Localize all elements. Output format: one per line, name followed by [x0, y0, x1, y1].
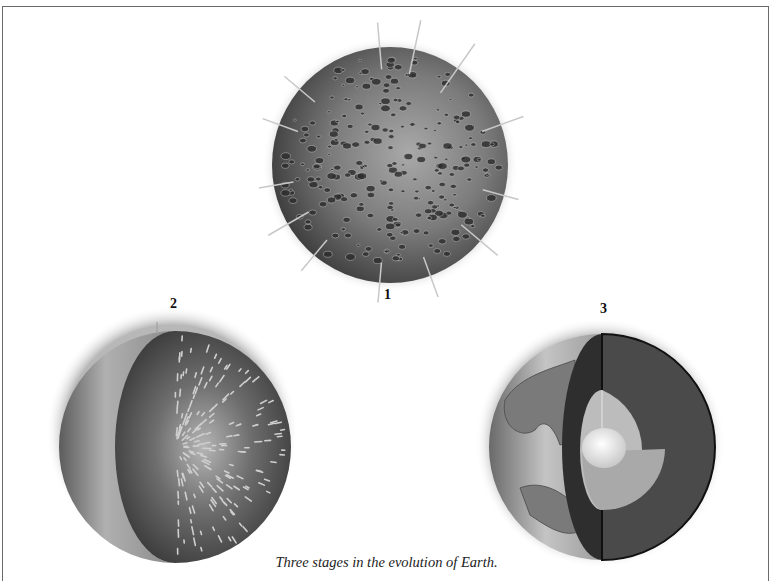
- crater: [389, 129, 394, 133]
- crater: [301, 126, 309, 131]
- crater: [334, 138, 338, 141]
- crater: [394, 171, 402, 177]
- crater: [330, 168, 333, 170]
- crater: [427, 200, 433, 204]
- crater: [319, 201, 327, 207]
- radial-dash: [201, 531, 202, 534]
- radial-dash: [206, 442, 210, 443]
- crater: [444, 113, 449, 116]
- crater: [390, 78, 398, 84]
- crater: [383, 88, 390, 93]
- crater: [455, 120, 460, 123]
- crater: [451, 229, 460, 235]
- crater: [415, 190, 419, 193]
- crater: [384, 250, 388, 253]
- crater: [357, 244, 360, 246]
- crater: [444, 199, 448, 202]
- crater: [306, 169, 310, 172]
- crater: [414, 57, 418, 60]
- crater: [470, 224, 475, 227]
- crater: [329, 131, 338, 137]
- crater: [386, 232, 393, 237]
- radial-dash: [281, 430, 285, 431]
- crater: [281, 153, 291, 160]
- crater: [404, 154, 413, 160]
- crater: [381, 105, 391, 112]
- stage-3-label: 3: [600, 301, 607, 317]
- crater: [449, 99, 452, 101]
- crater: [400, 232, 403, 234]
- crater: [443, 143, 452, 149]
- crater: [289, 198, 297, 204]
- crater: [453, 193, 457, 196]
- crater: [462, 234, 470, 239]
- radial-dash: [183, 421, 184, 424]
- crater: [423, 231, 429, 235]
- crater: [434, 249, 441, 254]
- crater: [388, 188, 393, 192]
- crater: [365, 246, 372, 251]
- crater: [388, 202, 393, 206]
- crater: [364, 140, 370, 144]
- crater: [427, 142, 431, 145]
- crater: [361, 69, 369, 75]
- crater: [395, 223, 401, 227]
- crater: [461, 111, 470, 117]
- radial-dash: [234, 435, 239, 436]
- crater: [377, 228, 382, 232]
- crater: [458, 166, 465, 171]
- radial-dash: [193, 395, 194, 398]
- crater: [356, 160, 363, 165]
- crater: [482, 168, 488, 172]
- crater: [481, 214, 486, 217]
- radial-dash: [176, 428, 177, 436]
- crater: [449, 173, 455, 177]
- crater: [316, 177, 322, 181]
- radial-dash: [271, 462, 276, 463]
- crater: [342, 114, 347, 118]
- crater: [464, 163, 470, 167]
- crater: [341, 68, 345, 71]
- crater: [343, 217, 351, 222]
- crater: [344, 233, 351, 238]
- crater: [315, 158, 324, 164]
- crater: [438, 163, 448, 170]
- radial-dash: [275, 433, 281, 434]
- radial-dash: [201, 547, 202, 550]
- crater: [419, 143, 427, 149]
- crater: [327, 145, 331, 148]
- crater: [401, 125, 405, 128]
- crater: [431, 190, 435, 193]
- crater: [327, 111, 330, 113]
- crater: [327, 173, 337, 180]
- crater: [362, 83, 371, 89]
- crater: [388, 135, 394, 139]
- crater: [392, 217, 398, 221]
- crater: [394, 64, 402, 69]
- crater: [385, 75, 392, 80]
- crater: [383, 83, 390, 88]
- crater: [445, 158, 448, 160]
- crater: [465, 144, 468, 146]
- crater: [413, 196, 418, 200]
- crater: [357, 173, 367, 180]
- crater: [387, 57, 395, 63]
- crater: [342, 84, 345, 86]
- crater: [360, 112, 364, 115]
- radial-dash: [177, 471, 178, 477]
- crater: [392, 162, 397, 166]
- crater: [398, 244, 405, 249]
- crater: [307, 177, 315, 182]
- crater: [295, 178, 300, 181]
- crater: [332, 233, 339, 238]
- crater: [436, 109, 440, 112]
- crater: [334, 165, 341, 170]
- crater: [359, 203, 364, 207]
- crater: [345, 77, 354, 84]
- crater: [336, 120, 340, 123]
- radial-dash: [179, 478, 180, 485]
- crater: [352, 142, 360, 148]
- crater: [371, 124, 380, 130]
- crater: [344, 98, 348, 101]
- crater: [304, 133, 310, 137]
